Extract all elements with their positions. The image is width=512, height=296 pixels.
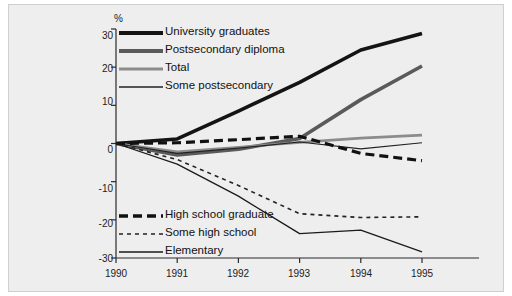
chart-series-group <box>116 34 422 252</box>
x-axis-ticks <box>116 258 422 263</box>
series-elementary <box>116 144 422 252</box>
chart-figure: % 30 20 10 0 -10 -20 -30 1990 1991 1992 … <box>8 4 504 292</box>
series-some-high-school <box>116 144 422 218</box>
y-axis-ticks <box>111 29 116 258</box>
chart-plot-area <box>9 5 505 293</box>
